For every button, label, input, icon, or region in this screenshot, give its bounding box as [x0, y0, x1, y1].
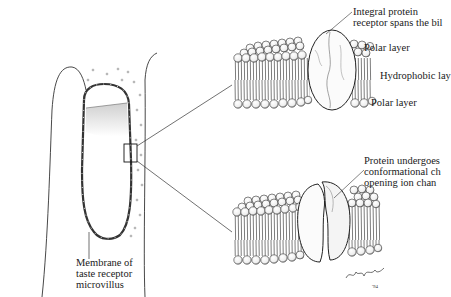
label-text: opening ion chan — [364, 177, 441, 188]
label-membrane: Membrane of taste receptor microvillus — [76, 257, 133, 290]
label-protein-change: Protein undergoes conformational ch open… — [364, 155, 441, 188]
receptor-protein-closed — [308, 30, 356, 110]
label-text: receptor spans the bil — [353, 17, 443, 28]
label-text: Protein undergoes — [364, 155, 441, 166]
label-integral-protein: Integral protein receptor spans the bil — [353, 6, 443, 28]
label-text: Membrane of — [76, 257, 133, 268]
label-text: microvillus — [76, 279, 133, 290]
label-polar-layer-top: Polar layer — [364, 42, 410, 53]
bilayer-open: '94 — [233, 170, 384, 289]
artist-signature — [346, 268, 384, 278]
microvillus-overview — [42, 53, 232, 297]
label-text: Integral protein — [353, 6, 443, 17]
label-text: taste receptor — [76, 268, 133, 279]
label-text: conformational ch — [364, 166, 441, 177]
svg-text:'94: '94 — [372, 284, 378, 289]
receptor-protein-half-right — [322, 182, 350, 260]
label-polar-layer-bottom: Polar layer — [371, 97, 417, 108]
label-hydrophobic-layer: Hydrophobic lay — [380, 70, 451, 81]
